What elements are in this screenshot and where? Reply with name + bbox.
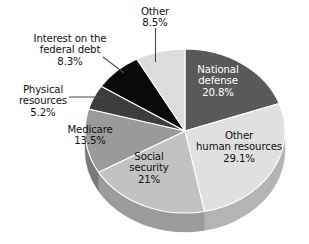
slice-label-interest-federal-debt: Interest on the federal debt 8.3% (18, 33, 122, 67)
pie-chart-figure: Other 8.5% Interest on the federal debt … (0, 0, 309, 244)
slice-label-national-defense-line1: National (182, 64, 254, 75)
slice-value-national-defense: 20.8% (182, 87, 254, 98)
slice-label-social-security-line2: security (118, 162, 180, 173)
slice-value-medicare: 13.5% (54, 135, 126, 146)
slice-label-other-human-resources: Other human resources 29.1% (180, 130, 298, 164)
slice-value-other-human-resources: 29.1% (180, 153, 298, 164)
slice-value-other: 8.5% (118, 17, 192, 28)
slice-value-social-security: 21% (118, 174, 180, 185)
slice-label-interest-federal-debt-line2: federal debt (18, 44, 122, 55)
slice-label-other-text: Other (118, 6, 192, 17)
slice-label-physical-resources-line1: Physical (4, 84, 82, 95)
slice-value-physical-resources: 5.2% (4, 107, 82, 118)
slice-label-physical-resources: Physical resources 5.2% (4, 84, 82, 118)
slice-label-social-security: Social security 21% (118, 151, 180, 185)
slice-label-social-security-line1: Social (118, 151, 180, 162)
slice-label-medicare: Medicare 13.5% (54, 124, 126, 147)
slice-label-other-human-resources-line1: Other (180, 130, 298, 141)
slice-label-other-human-resources-line2: human resources (180, 141, 298, 152)
slice-label-interest-federal-debt-line1: Interest on the (18, 33, 122, 44)
slice-label-medicare-text: Medicare (54, 124, 126, 135)
slice-label-national-defense-line2: defense (182, 75, 254, 86)
slice-label-other: Other 8.5% (118, 6, 192, 29)
slice-label-physical-resources-line2: resources (4, 95, 82, 106)
slice-value-interest-federal-debt: 8.3% (18, 56, 122, 67)
slice-label-national-defense: National defense 20.8% (182, 64, 254, 98)
